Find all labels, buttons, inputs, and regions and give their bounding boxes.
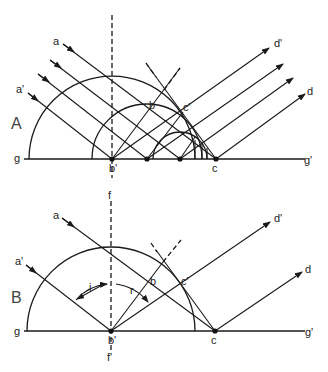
- label-b: b: [149, 99, 155, 111]
- radius-line-2: [147, 112, 183, 159]
- reflected-wavefront-b: [156, 250, 215, 331]
- label-b-b: b: [150, 275, 156, 287]
- wavefront-extension-dashed-b: [151, 243, 157, 252]
- point-b-prime-b: [108, 328, 113, 333]
- label-c: c: [212, 162, 218, 174]
- point-mid-1: [144, 156, 149, 161]
- label-c-b: c: [211, 334, 217, 346]
- label-a-prime-b: a': [15, 255, 23, 267]
- arrow-icon: [63, 44, 74, 52]
- reflected-ray-2: [147, 64, 283, 159]
- point-mid-2: [177, 156, 182, 161]
- label-d-prime: d': [274, 37, 282, 49]
- label-f: f: [108, 189, 112, 201]
- reflected-ray-d: [216, 94, 305, 159]
- label-g-prime: g': [304, 154, 312, 166]
- radius-extension-dashed-b: [163, 240, 181, 262]
- panel-b: B g g' b' c b c' a a' d' d f f' i r: [11, 189, 313, 363]
- arrow-icon: [38, 74, 49, 82]
- label-d-b: d: [305, 263, 311, 275]
- label-b-prime: b': [109, 162, 117, 174]
- label-c-prime-b: c': [181, 275, 189, 287]
- label-angle-i: i: [89, 281, 91, 293]
- arrow-icon: [26, 265, 36, 273]
- label-angle-r: r: [130, 284, 134, 296]
- label-f-prime: f': [107, 351, 112, 363]
- incident-ray-2: [50, 60, 180, 159]
- reflected-ray-3: [180, 78, 293, 159]
- huygens-reflection-diagram: A g g' b' c b c' a a' d' d: [0, 0, 328, 372]
- label-g-prime-b: g': [305, 326, 313, 338]
- point-c: [213, 156, 218, 161]
- label-a-b: a: [53, 209, 60, 221]
- arrow-icon: [28, 93, 38, 101]
- label-a: a: [53, 35, 60, 47]
- point-b-prime: [109, 156, 114, 161]
- incident-ray-a-prime: [28, 93, 112, 159]
- reflected-ray-d-b: [215, 272, 302, 331]
- panel-label-a: A: [11, 115, 22, 132]
- label-d-prime-b: d': [274, 212, 282, 224]
- reflected-ray-d-prime-b: [111, 222, 270, 331]
- label-d: d: [307, 85, 313, 97]
- point-c-b: [212, 328, 217, 333]
- label-g: g: [14, 152, 20, 164]
- incident-ray-a-b: [62, 218, 215, 331]
- panel-label-b: B: [11, 289, 22, 306]
- panel-a: A g g' b' c b c' a a' d' d: [11, 15, 313, 178]
- label-g-b: g: [14, 325, 20, 337]
- label-b-prime-b: b': [108, 334, 116, 346]
- arrow-icon: [50, 60, 61, 68]
- radius-b-prime-b-b: [111, 262, 163, 331]
- arrow-icon: [62, 218, 74, 227]
- incident-ray-a-prime-b: [26, 265, 111, 331]
- label-a-prime: a': [16, 83, 24, 95]
- radius-line-3: [180, 137, 195, 159]
- label-c-prime: c': [183, 101, 191, 113]
